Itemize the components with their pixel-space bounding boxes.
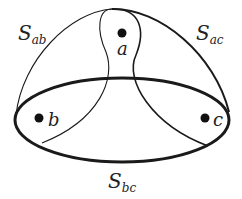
point-b-label: b [48, 109, 60, 130]
set-s-ac-label: Sac [196, 21, 224, 47]
point-c-dot [201, 114, 210, 123]
hypergraph-diagram: a b c Sab Sac Sbc [0, 0, 242, 199]
point-c-label: c [213, 109, 223, 130]
point-a-dot [118, 29, 127, 38]
set-s-ab-label: Sab [18, 21, 47, 47]
point-b-dot [35, 114, 44, 123]
point-a-label: a [117, 38, 128, 59]
set-s-bc-label: Sbc [108, 169, 136, 195]
